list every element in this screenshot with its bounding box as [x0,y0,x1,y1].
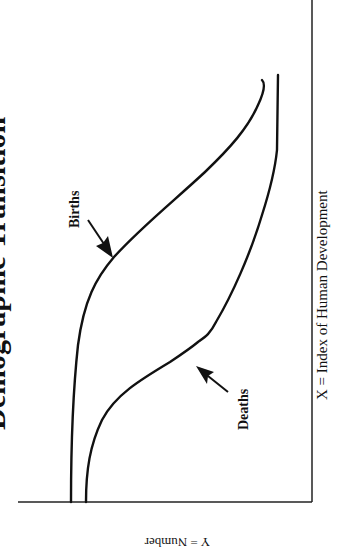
x-axis-label: X = Index of Human Development [314,190,331,400]
y-axis-label: Y = Number [145,534,210,550]
deaths-label: Deaths [236,389,252,430]
deaths-arrow-icon [196,366,228,392]
births-arrow-icon [88,220,113,258]
births-curve [71,80,264,502]
deaths-curve [86,75,278,502]
births-label: Births [67,191,83,228]
